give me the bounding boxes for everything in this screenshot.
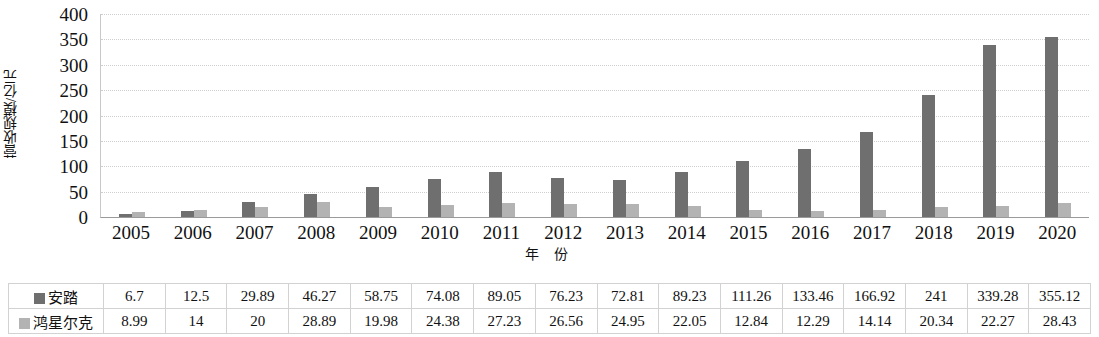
bar-anta	[798, 149, 811, 217]
bar-hongxingerke	[626, 204, 639, 217]
bar-group	[719, 14, 781, 217]
y-axis-title: 营收规模/亿元	[0, 12, 24, 217]
y-axis-tick-labels: 050100150200250300350400	[22, 0, 94, 230]
bar-anta	[428, 179, 441, 217]
bar-group	[286, 14, 348, 217]
table-cell: 20	[227, 309, 289, 334]
x-axis-tick-label: 2011	[471, 222, 533, 244]
bar-group	[472, 14, 534, 217]
bar-hongxingerke	[132, 212, 145, 217]
bar-anta	[922, 95, 935, 217]
table-cell: 20.34	[905, 309, 967, 334]
series-label: 安踏	[48, 290, 78, 306]
y-axis-tick-label: 100	[22, 157, 88, 176]
x-axis-tick-label: 2008	[285, 222, 347, 244]
table-cell: 22.05	[659, 309, 721, 334]
y-axis-tick-label: 0	[22, 208, 88, 227]
x-axis-tick-label: 2016	[779, 222, 841, 244]
x-axis-tick-label: 2005	[100, 222, 162, 244]
bar-anta	[613, 180, 626, 217]
table-cell: 24.38	[412, 309, 474, 334]
bar-group	[842, 14, 904, 217]
data-table: 安踏6.712.529.8946.2758.7574.0889.0576.237…	[8, 283, 1091, 334]
table-cell: 74.08	[412, 284, 474, 309]
bar-hongxingerke	[317, 202, 330, 217]
x-axis-tick-label: 2009	[347, 222, 409, 244]
bar-anta	[304, 194, 317, 217]
bar-hongxingerke	[811, 211, 824, 217]
data-table-body: 安踏6.712.529.8946.2758.7574.0889.0576.237…	[9, 284, 1091, 334]
bar-group	[101, 14, 163, 217]
table-cell: 27.23	[474, 309, 536, 334]
bar-anta	[119, 214, 132, 217]
bar-anta	[366, 187, 379, 217]
bar-hongxingerke	[688, 206, 701, 217]
bar-hongxingerke	[441, 205, 454, 217]
bar-hongxingerke	[935, 207, 948, 217]
bar-hongxingerke	[1058, 203, 1071, 217]
bar-group	[904, 14, 966, 217]
bar-hongxingerke	[873, 210, 886, 217]
table-cell: 76.23	[535, 284, 597, 309]
table-cell: 46.27	[289, 284, 351, 309]
x-axis-tick-label: 2017	[841, 222, 903, 244]
x-axis-tick-label: 2006	[162, 222, 224, 244]
table-cell: 6.7	[104, 284, 166, 309]
x-axis-tick-label: 2010	[409, 222, 471, 244]
bar-anta	[736, 161, 749, 217]
table-cell: 339.28	[967, 284, 1029, 309]
table-cell: 58.75	[350, 284, 412, 309]
x-axis-tick-label: 2019	[965, 222, 1027, 244]
bar-anta	[675, 172, 688, 217]
bar-group	[966, 14, 1028, 217]
table-cell: 14.14	[844, 309, 906, 334]
bar-hongxingerke	[255, 207, 268, 217]
bar-group	[348, 14, 410, 217]
table-cell: 166.92	[844, 284, 906, 309]
bar-group	[1027, 14, 1089, 217]
legend-swatch-hongxingerke-icon	[19, 318, 30, 329]
x-axis-title: 年 份	[0, 243, 1099, 263]
x-axis-tick-label: 2013	[594, 222, 656, 244]
table-cell: 8.99	[104, 309, 166, 334]
table-cell: 12.29	[782, 309, 844, 334]
table-cell: 22.27	[967, 309, 1029, 334]
x-axis-tick-label: 2015	[718, 222, 780, 244]
table-cell: 29.89	[227, 284, 289, 309]
y-axis-tick-label: 250	[22, 81, 88, 100]
table-cell: 111.26	[720, 284, 782, 309]
table-cell: 133.46	[782, 284, 844, 309]
y-axis-tick-label: 200	[22, 107, 88, 126]
table-row: 安踏6.712.529.8946.2758.7574.0889.0576.237…	[9, 284, 1091, 309]
table-cell: 19.98	[350, 309, 412, 334]
bar-hongxingerke	[194, 210, 207, 217]
bar-group	[780, 14, 842, 217]
table-cell: 12.5	[165, 284, 227, 309]
table-cell: 28.89	[289, 309, 351, 334]
bar-anta	[1045, 37, 1058, 217]
bar-group	[225, 14, 287, 217]
legend-swatch-anta-icon	[34, 293, 45, 304]
y-axis-tick-label: 300	[22, 56, 88, 75]
y-axis-tick-label: 150	[22, 132, 88, 151]
table-cell: 28.43	[1029, 309, 1091, 334]
bar-anta	[551, 178, 564, 217]
x-axis-tick-label: 2014	[656, 222, 718, 244]
bar-hongxingerke	[749, 210, 762, 217]
plot-area	[100, 14, 1089, 218]
bar-anta	[983, 45, 996, 217]
x-axis-tick-label: 2012	[532, 222, 594, 244]
bar-hongxingerke	[379, 207, 392, 217]
bar-chart: 营收规模/亿元 050100150200250300350400 2005200…	[0, 0, 1099, 255]
table-cell: 241	[905, 284, 967, 309]
table-cell: 89.23	[659, 284, 721, 309]
table-cell: 89.05	[474, 284, 536, 309]
x-axis-tick-label: 2007	[224, 222, 286, 244]
series-name-cell: 鸿星尔克	[9, 309, 104, 334]
table-row: 鸿星尔克8.99142028.8919.9824.3827.2326.5624.…	[9, 309, 1091, 334]
bar-anta	[242, 202, 255, 217]
bar-group	[163, 14, 225, 217]
y-axis-tick-label: 50	[22, 183, 88, 202]
bar-hongxingerke	[996, 206, 1009, 217]
bar-group	[533, 14, 595, 217]
